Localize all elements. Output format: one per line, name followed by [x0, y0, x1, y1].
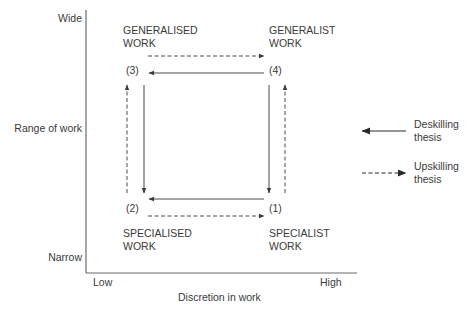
generalised-line2: WORK — [123, 37, 198, 50]
x-axis-right-label: High — [320, 276, 342, 289]
x-axis-left-label: Low — [93, 276, 112, 289]
specialist-work-label: SPECIALIST WORK — [269, 227, 330, 253]
quadrant-3-number: (3) — [126, 64, 139, 77]
y-axis-top-label: Wide — [58, 12, 82, 25]
generalist-line1: GENERALIST — [269, 24, 336, 37]
generalised-work-label: GENERALISED WORK — [123, 24, 198, 50]
specialised-line2: WORK — [123, 240, 192, 253]
quadrant-2-number: (2) — [126, 202, 139, 215]
quadrant-1-number: (1) — [269, 202, 282, 215]
legend-deskilling-label: Deskilling thesis — [414, 118, 459, 144]
diagram-canvas — [0, 0, 473, 314]
quadrant-4-number: (4) — [269, 64, 282, 77]
deskilling-line2: thesis — [414, 131, 459, 144]
y-axis-bottom-label: Narrow — [48, 251, 82, 264]
x-axis-title: Discretion in work — [178, 291, 261, 304]
specialist-line2: WORK — [269, 240, 330, 253]
upskilling-line2: thesis — [414, 173, 459, 186]
specialised-line1: SPECIALISED — [123, 227, 192, 240]
generalist-work-label: GENERALIST WORK — [269, 24, 336, 50]
generalist-line2: WORK — [269, 37, 336, 50]
upskilling-line1: Upskilling — [414, 160, 459, 173]
y-axis-title: Range of work — [14, 122, 82, 135]
deskilling-line1: Deskilling — [414, 118, 459, 131]
generalised-line1: GENERALISED — [123, 24, 198, 37]
specialist-line1: SPECIALIST — [269, 227, 330, 240]
specialised-work-label: SPECIALISED WORK — [123, 227, 192, 253]
legend-upskilling-label: Upskilling thesis — [414, 160, 459, 186]
